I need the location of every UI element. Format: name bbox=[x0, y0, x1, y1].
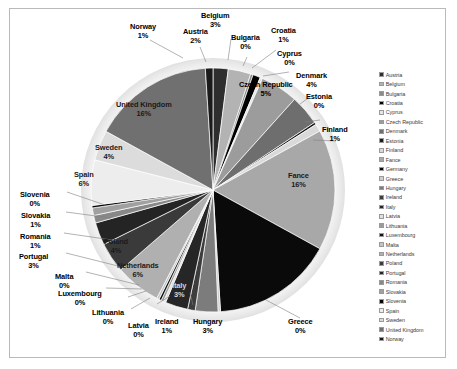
legend-swatch-icon bbox=[379, 289, 384, 294]
legend-item[interactable]: Germany bbox=[379, 164, 443, 173]
legend-item[interactable]: United Kingdom bbox=[379, 325, 443, 334]
legend-swatch-icon bbox=[379, 242, 384, 247]
legend-item[interactable]: Austria bbox=[379, 70, 443, 79]
legend-swatch-icon bbox=[379, 299, 384, 304]
callout-greece-pct: 0% bbox=[288, 327, 312, 336]
legend-item-label: Latvia bbox=[386, 213, 400, 219]
callout-slovakia: Slovakia 1% bbox=[21, 212, 50, 229]
legend-item[interactable]: Sweden bbox=[379, 315, 443, 324]
callout-ireland-label: Ireland bbox=[155, 317, 179, 326]
legend-swatch-icon bbox=[379, 72, 384, 77]
legend-item[interactable]: Portugal bbox=[379, 268, 443, 277]
legend-item[interactable]: Greece bbox=[379, 174, 443, 183]
callout-spain: Spain 6% bbox=[74, 171, 94, 188]
legend-item[interactable]: Latvia bbox=[379, 212, 443, 221]
callout-netherlands: Netherlands 6% bbox=[117, 262, 159, 279]
callout-italy-label: Italy bbox=[172, 281, 186, 290]
legend-swatch-icon bbox=[379, 186, 384, 191]
legend-item-label: Slovakia bbox=[386, 289, 406, 295]
legend-item[interactable]: Belgium bbox=[379, 79, 443, 88]
legend-swatch-icon bbox=[379, 138, 384, 143]
legend-item[interactable]: Netherlands bbox=[379, 249, 443, 258]
legend-item-label: Portugal bbox=[386, 270, 406, 276]
callout-bulgaria: Bulgaria 0% bbox=[231, 34, 260, 51]
callout-malta: Malta 0% bbox=[55, 273, 73, 290]
callout-ireland-pct: 1% bbox=[155, 327, 179, 336]
legend-item-label: Fance bbox=[386, 157, 401, 163]
callout-romania-pct: 1% bbox=[20, 242, 51, 251]
legend-item[interactable]: Estonia bbox=[379, 136, 443, 145]
legend-item[interactable]: Norway bbox=[379, 334, 443, 343]
legend-item-label: Norway bbox=[386, 336, 404, 342]
callout-lithuania: Lithuania 0% bbox=[92, 309, 124, 326]
legend-item-label: Luxembourg bbox=[386, 232, 415, 238]
legend-swatch-icon bbox=[379, 91, 384, 96]
legend-item-label: Austria bbox=[386, 72, 402, 78]
callout-finland: Finland 1% bbox=[322, 126, 348, 143]
legend-swatch-icon bbox=[379, 318, 384, 323]
callout-czech-republic: Czech Republic 5% bbox=[239, 81, 293, 98]
callout-norway: Norway 1% bbox=[130, 23, 156, 40]
callout-poland: Poland 4% bbox=[104, 238, 128, 255]
legend-item[interactable]: Slovakia bbox=[379, 287, 443, 296]
legend-swatch-icon bbox=[379, 223, 384, 228]
callout-latvia: Latvia 0% bbox=[128, 322, 149, 339]
callout-slovenia: Slovenia 0% bbox=[20, 191, 50, 208]
legend-item-label: Bulgaria bbox=[386, 91, 405, 97]
legend-item[interactable]: Spain bbox=[379, 306, 443, 315]
legend-item[interactable]: Lithuania bbox=[379, 221, 443, 230]
legend-swatch-icon bbox=[379, 308, 384, 313]
legend-swatch-icon bbox=[379, 261, 384, 266]
legend-item[interactable]: Italy bbox=[379, 202, 443, 211]
legend-item[interactable]: Czech Republic bbox=[379, 117, 443, 126]
legend-item[interactable]: Malta bbox=[379, 240, 443, 249]
callout-sweden: Sweden 4% bbox=[95, 144, 122, 161]
legend-item-label: Netherlands bbox=[386, 251, 415, 257]
legend-item-label: Estonia bbox=[386, 138, 404, 144]
legend-item[interactable]: Luxembourg bbox=[379, 230, 443, 239]
callout-poland-pct: 4% bbox=[104, 247, 128, 256]
callout-hungary-pct: 3% bbox=[193, 327, 222, 336]
legend-item[interactable]: Cyprus bbox=[379, 108, 443, 117]
legend-item-label: Spain bbox=[386, 308, 400, 314]
legend-item[interactable]: Ireland bbox=[379, 193, 443, 202]
legend-item[interactable]: Romania bbox=[379, 278, 443, 287]
callout-latvia-label: Latvia bbox=[128, 321, 149, 330]
legend-item[interactable]: Poland bbox=[379, 259, 443, 268]
callout-lithuania-pct: 0% bbox=[92, 318, 124, 327]
callout-croatia-pct: 1% bbox=[271, 36, 296, 45]
callout-malta-label: Malta bbox=[55, 272, 73, 281]
legend-item-label: Ireland bbox=[386, 194, 402, 200]
legend-item[interactable]: Denmark bbox=[379, 127, 443, 136]
legend-swatch-icon bbox=[379, 120, 384, 125]
leader-norway bbox=[150, 40, 183, 58]
legend-swatch-icon bbox=[379, 195, 384, 200]
legend-item[interactable]: Hungary bbox=[379, 183, 443, 192]
callout-estonia-pct: 0% bbox=[306, 102, 332, 111]
legend-item-label: Hungary bbox=[386, 185, 406, 191]
leader-croatia bbox=[252, 50, 276, 68]
callout-sweden-label: Sweden bbox=[95, 143, 122, 152]
callout-fance-pct: 16% bbox=[288, 181, 309, 190]
legend-item[interactable]: Fance bbox=[379, 155, 443, 164]
callout-netherlands-pct: 6% bbox=[117, 271, 159, 280]
legend-item-label: Finland bbox=[386, 147, 403, 153]
callout-slovenia-pct: 0% bbox=[20, 200, 50, 209]
legend-swatch-icon bbox=[379, 252, 384, 257]
callout-czech-republic-pct: 5% bbox=[239, 90, 293, 99]
legend-item[interactable]: Bulgaria bbox=[379, 89, 443, 98]
callout-portugal-pct: 3% bbox=[19, 262, 48, 271]
legend-item[interactable]: Croatia bbox=[379, 98, 443, 107]
legend-item[interactable]: Slovenia bbox=[379, 297, 443, 306]
callout-romania-label: Romania bbox=[20, 232, 51, 241]
legend-swatch-icon bbox=[379, 167, 384, 172]
legend-item[interactable]: Finland bbox=[379, 146, 443, 155]
legend-item-label: Germany bbox=[386, 166, 408, 172]
callout-luxembourg-pct: 0% bbox=[58, 299, 102, 308]
legend-swatch-icon bbox=[379, 214, 384, 219]
callout-luxembourg: Luxembourg 0% bbox=[58, 290, 102, 307]
legend-item-label: Belgium bbox=[386, 81, 405, 87]
callout-cyprus-label: Cyprus bbox=[277, 49, 302, 58]
legend-swatch-icon bbox=[379, 101, 384, 106]
legend-item-label: Italy bbox=[386, 204, 396, 210]
